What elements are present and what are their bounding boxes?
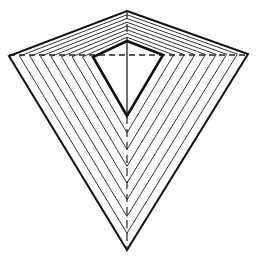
inner-kite	[93, 41, 163, 116]
nested-kite-diagram	[0, 0, 259, 260]
intermediate-kite	[72, 34, 184, 150]
intermediate-kite	[62, 30, 195, 167]
intermediate-kite	[30, 19, 227, 217]
intermediate-kite	[83, 37, 174, 133]
